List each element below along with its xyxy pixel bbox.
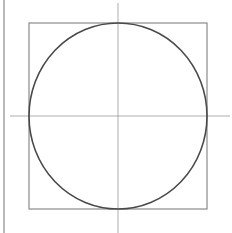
diagram-canvas — [0, 0, 232, 233]
